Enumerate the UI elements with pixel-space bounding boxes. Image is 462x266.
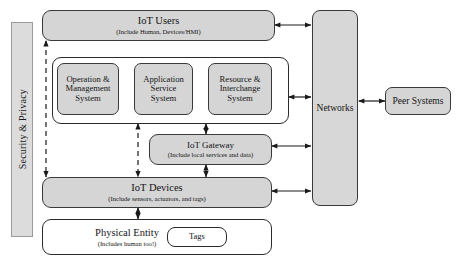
node-operation-management-system[interactable]: Operation & Management System [57, 63, 119, 115]
node-iot-devices[interactable]: IoT Devices (Include sensors, actuators,… [42, 177, 272, 208]
iot-gateway-subtitle: (Include local services and data) [168, 151, 253, 158]
security-privacy-band: Security & Privacy [11, 22, 33, 237]
iot-devices-title: IoT Devices [131, 182, 182, 194]
node-resource-interchange-system[interactable]: Resource & Interchange System [208, 63, 272, 115]
peer-systems-label: Peer Systems [393, 96, 444, 107]
iot-users-title: IoT Users [138, 15, 180, 27]
node-application-service-system[interactable]: Application Service System [134, 63, 193, 115]
node-peer-systems[interactable]: Peer Systems [385, 87, 451, 115]
node-iot-gateway[interactable]: IoT Gateway (Include local services and … [149, 134, 272, 165]
iot-users-subtitle: (Include Human, Devices/HMI) [116, 28, 200, 35]
physical-entity-title: Physical Entity [95, 227, 159, 239]
networks-label: Networks [317, 103, 354, 113]
application-service-line3: System [151, 94, 176, 104]
tags-label: Tags [189, 232, 205, 242]
security-privacy-label: Security & Privacy [17, 89, 28, 169]
node-physical-entity[interactable]: Physical Entity (Includes human too!) Ta… [42, 219, 272, 255]
iot-devices-subtitle: (Include sensors, actuators, and tags) [108, 195, 205, 202]
physical-entity-text: Physical Entity (Includes human too!) [95, 227, 159, 247]
iot-architecture-diagram: Security & Privacy IoT Users (Include Hu… [0, 0, 462, 266]
iot-gateway-title: IoT Gateway [187, 140, 234, 150]
node-networks[interactable]: Networks [312, 10, 358, 206]
node-tags[interactable]: Tags [167, 227, 227, 247]
physical-entity-subtitle: (Includes human too!) [98, 240, 157, 247]
node-iot-users[interactable]: IoT Users (Include Human, Devices/HMI) [42, 10, 275, 41]
operation-management-line3: System [75, 94, 100, 104]
resource-interchange-line3: System [227, 94, 252, 104]
